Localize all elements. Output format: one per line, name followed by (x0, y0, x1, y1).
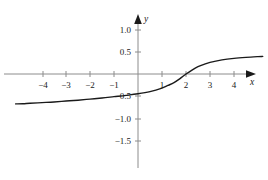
y-tick-label: −1.0 (115, 114, 132, 124)
arrow-up-icon (134, 14, 142, 24)
x-tick-label: 4 (232, 80, 237, 90)
x-tick-label: 3 (208, 80, 213, 90)
data-curve (16, 56, 263, 104)
chart-figure: −4 −3 −2 −1 1 2 3 4 1.0 0.5 −0.5 −1.0 −1… (0, 0, 268, 180)
y-axis-label: y (143, 14, 149, 24)
x-tick-label: −2 (85, 80, 95, 90)
x-tick-label: 2 (184, 80, 189, 90)
plot-canvas: −4 −3 −2 −1 1 2 3 4 1.0 0.5 −0.5 −1.0 −1… (0, 0, 268, 180)
x-tick-label: −3 (61, 80, 71, 90)
x-tick-label: −1 (109, 80, 119, 90)
y-tick-label: −1.5 (115, 136, 132, 146)
y-tick-label: 0.5 (120, 47, 132, 57)
x-axis-label: x (249, 77, 255, 87)
x-tick-label: −4 (38, 80, 48, 90)
y-tick-label: 1.0 (120, 25, 132, 35)
